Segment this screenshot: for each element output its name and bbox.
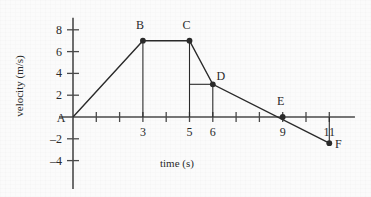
point-label-D: D bbox=[216, 69, 225, 83]
point-label-E: E bbox=[277, 94, 284, 108]
velocity-time-graph: 356911–4–22468ABCDEF velocity (m/s) time… bbox=[0, 0, 371, 197]
y-tick-label: 2 bbox=[56, 88, 62, 102]
y-axis-title: velocity (m/s) bbox=[13, 41, 25, 131]
data-point-D bbox=[210, 81, 216, 87]
point-label-F: F bbox=[335, 137, 342, 151]
data-point-F bbox=[326, 140, 332, 146]
x-tick-label: 5 bbox=[187, 125, 193, 139]
velocity-curve bbox=[73, 41, 329, 143]
point-label-B: B bbox=[136, 18, 144, 32]
x-tick-label: 3 bbox=[140, 125, 146, 139]
y-tick-label: 8 bbox=[56, 23, 62, 37]
point-label-A: A bbox=[57, 111, 66, 125]
y-tick-label: 4 bbox=[56, 66, 62, 80]
data-point-B bbox=[140, 38, 146, 44]
x-axis-title: time (s) bbox=[160, 157, 194, 169]
x-tick-label: 6 bbox=[210, 125, 216, 139]
point-label-C: C bbox=[182, 18, 190, 32]
y-tick-label: 6 bbox=[56, 45, 62, 59]
y-tick-label: –4 bbox=[49, 154, 62, 168]
data-point-C bbox=[187, 38, 193, 44]
x-tick-label: 9 bbox=[280, 125, 286, 139]
y-tick-label: –2 bbox=[49, 132, 62, 146]
data-point-E bbox=[280, 114, 286, 120]
